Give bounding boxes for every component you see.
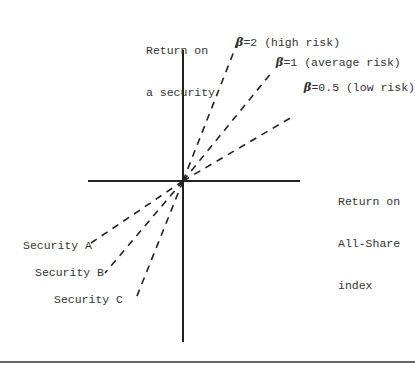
security-c-line bbox=[135, 181, 183, 301]
security-b-label: Security B bbox=[35, 266, 104, 280]
y-axis-label: Return on a security bbox=[146, 16, 215, 114]
security-a-line bbox=[88, 181, 183, 245]
security-a-label: Security A bbox=[23, 239, 92, 253]
x-axis-label: Return on All-Share index bbox=[338, 167, 400, 307]
security-c-label: Security C bbox=[54, 293, 123, 307]
beta-05-line bbox=[183, 117, 292, 181]
security-b-line bbox=[105, 181, 183, 273]
beta-05-label: β=0.5 (low risk) bbox=[290, 66, 415, 95]
